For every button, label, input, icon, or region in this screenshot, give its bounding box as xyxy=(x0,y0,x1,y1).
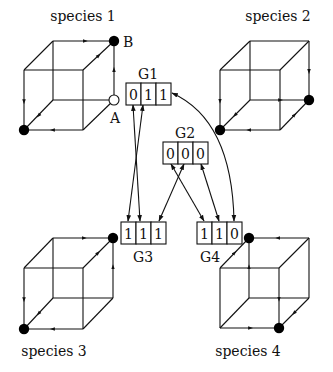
local-optimum-node xyxy=(109,36,119,46)
gene-g3: 111G3 xyxy=(121,222,166,265)
cube-edge xyxy=(280,100,309,130)
local-optimum-node xyxy=(304,95,314,105)
gene-cell-value: 0 xyxy=(196,146,205,162)
gene-g4: 110G4 xyxy=(197,222,242,265)
gene-label: G3 xyxy=(133,249,153,265)
gene-g2: 000G2 xyxy=(163,125,208,164)
gene-cell-value: 1 xyxy=(139,226,148,242)
species-1-cube: BAspecies 1 xyxy=(19,8,133,135)
gene-cell-value: 1 xyxy=(159,87,168,103)
species-cubes: BAspecies 1species 2species 3species 4 xyxy=(19,8,314,359)
open-node xyxy=(109,95,119,105)
gene-cell-value: 0 xyxy=(129,87,138,103)
cube-edge xyxy=(280,41,309,70)
species-2-cube: species 2 xyxy=(215,8,314,135)
cube-edge xyxy=(24,100,53,130)
species-4-cube: species 4 xyxy=(215,233,309,359)
gene-cell-value: 0 xyxy=(166,146,175,162)
gene-link xyxy=(133,105,140,221)
cube-edge xyxy=(24,298,53,329)
cube-edge xyxy=(24,238,53,268)
gene-link xyxy=(159,164,184,221)
cube-edge xyxy=(220,100,250,130)
local-optimum-node xyxy=(244,233,254,243)
gene-link xyxy=(201,164,219,221)
gene-cell-value: 1 xyxy=(144,87,153,103)
cube-edge xyxy=(83,41,114,70)
gene-label: G1 xyxy=(138,66,158,82)
cube-edge xyxy=(220,298,249,328)
species-label: species 4 xyxy=(215,343,281,359)
gene-cell-value: 0 xyxy=(181,146,190,162)
cube-edge xyxy=(220,41,250,70)
species-label: species 1 xyxy=(50,8,116,24)
species-label: species 2 xyxy=(245,8,311,24)
gene-label: G2 xyxy=(175,125,195,141)
point-label: B xyxy=(123,34,133,50)
cube-edge xyxy=(83,298,113,329)
local-optimum-node xyxy=(108,233,118,243)
cube-edge xyxy=(279,238,309,268)
gene-link xyxy=(171,164,204,221)
species-label: species 3 xyxy=(21,343,87,359)
gene-cell-value: 0 xyxy=(230,226,239,242)
local-optimum-node xyxy=(19,324,29,334)
point-label: A xyxy=(109,110,121,126)
gene-cell-value: 1 xyxy=(200,226,209,242)
species-3-cube: species 3 xyxy=(19,233,118,359)
cube-edge xyxy=(24,41,53,70)
local-optimum-node xyxy=(19,125,29,135)
gene-label: G4 xyxy=(200,249,220,265)
gene-link xyxy=(128,105,143,221)
local-optimum-node xyxy=(274,323,284,333)
fitness-landscape-diagram: BAspecies 1species 2species 3species 4 0… xyxy=(0,0,333,372)
gene-cell-value: 1 xyxy=(124,226,133,242)
gene-g1: 011G1 xyxy=(126,66,171,105)
cube-edge xyxy=(83,238,113,268)
gene-cell-value: 1 xyxy=(154,226,163,242)
gene-boxes: 011G1000G2111G3110G4 xyxy=(121,66,242,265)
gene-cell-value: 1 xyxy=(215,226,224,242)
cube-edge xyxy=(279,298,309,328)
local-optimum-node xyxy=(215,125,225,135)
